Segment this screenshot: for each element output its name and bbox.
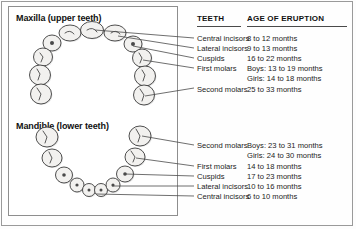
row-lower-2-age: 17 to 23 months <box>247 172 301 181</box>
row-upper-0-age: 8 to 12 months <box>247 34 297 43</box>
mandible-arch-drawing <box>8 6 178 216</box>
dental-eruption-chart: Maxilla (upper teeth) Mandible (lower te… <box>0 0 356 229</box>
row-lower-1-age: 14 to 18 months <box>247 162 301 171</box>
row-lower-4-tooth: Central incisors <box>197 192 249 201</box>
row-lower-0-tooth: Second molars <box>197 141 248 150</box>
row-upper-0-tooth: Central incisors <box>197 34 249 43</box>
row-upper-4-age: 25 to 33 months <box>247 85 301 94</box>
column-header-teeth: TEETH <box>197 14 224 23</box>
mandible-teeth <box>36 126 152 198</box>
row-upper-3-age-2: Girls: 14 to 18 months <box>247 74 321 83</box>
row-upper-3-age: Boys: 13 to 19 months <box>247 64 323 73</box>
row-lower-0-age: Boys: 23 to 31 months <box>247 141 323 150</box>
row-lower-1-tooth: First molars <box>197 162 237 171</box>
header-rule-teeth <box>197 26 241 27</box>
row-upper-1-tooth: Lateral incisors <box>197 44 248 53</box>
row-lower-4-age: 6 to 10 months <box>247 192 297 201</box>
row-lower-3-tooth: Lateral incisors <box>197 182 248 191</box>
row-lower-2-tooth: Cuspids <box>197 172 224 181</box>
column-header-age: AGE OF ERUPTION <box>247 14 324 23</box>
header-rule-age <box>247 26 347 27</box>
row-upper-3-tooth: First molars <box>197 64 237 73</box>
row-lower-3-age: 10 to 16 months <box>247 182 301 191</box>
row-upper-2-tooth: Cuspids <box>197 54 224 63</box>
row-upper-4-tooth: Second molars <box>197 85 248 94</box>
row-upper-1-age: 9 to 13 months <box>247 44 297 53</box>
row-lower-0-age-2: Girls: 24 to 30 months <box>247 151 321 160</box>
row-upper-2-age: 16 to 22 months <box>247 54 301 63</box>
